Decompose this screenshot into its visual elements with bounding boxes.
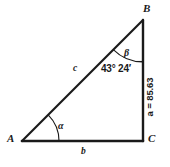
- side-label-c: c: [73, 64, 77, 74]
- angle-label-beta: β: [124, 48, 129, 58]
- side-label-b: b: [81, 147, 86, 157]
- side-label-a-measure: a = 85.63: [145, 78, 155, 117]
- vertex-label-B: B: [143, 3, 151, 14]
- vertex-label-A: A: [7, 133, 15, 144]
- angle-measure-beta: 43° 24′: [101, 64, 131, 74]
- geometry-figure: B A C b c a = 85.63 α β 43° 24′: [0, 0, 170, 167]
- angle-label-alpha: α: [58, 121, 64, 131]
- side-hypotenuse-line: [22, 20, 143, 141]
- vertex-label-C: C: [148, 133, 156, 144]
